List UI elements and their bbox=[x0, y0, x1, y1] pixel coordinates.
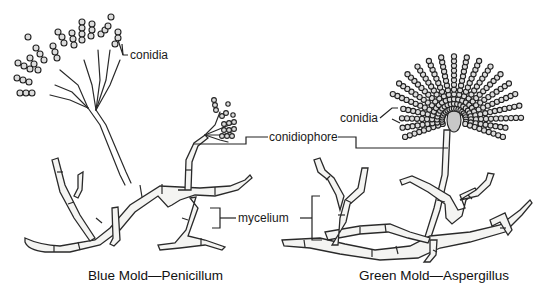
penicillium-conidia-label: conidia bbox=[130, 49, 168, 61]
mycelium-label: mycelium bbox=[238, 212, 289, 224]
conidiophore-label: conidiophore bbox=[269, 131, 338, 143]
penicillium-caption: Blue Mold—Penicillum bbox=[88, 269, 223, 283]
illustration-drawing bbox=[0, 0, 540, 296]
mold-diagram: conidia conidiophore mycelium conidia Bl… bbox=[0, 0, 540, 296]
aspergillus-drawing bbox=[282, 54, 532, 262]
aspergillus-conidia-label: conidia bbox=[340, 112, 378, 124]
penicillium-small-head bbox=[205, 98, 236, 142]
aspergillus-caption: Green Mold—Aspergillus bbox=[359, 269, 509, 283]
